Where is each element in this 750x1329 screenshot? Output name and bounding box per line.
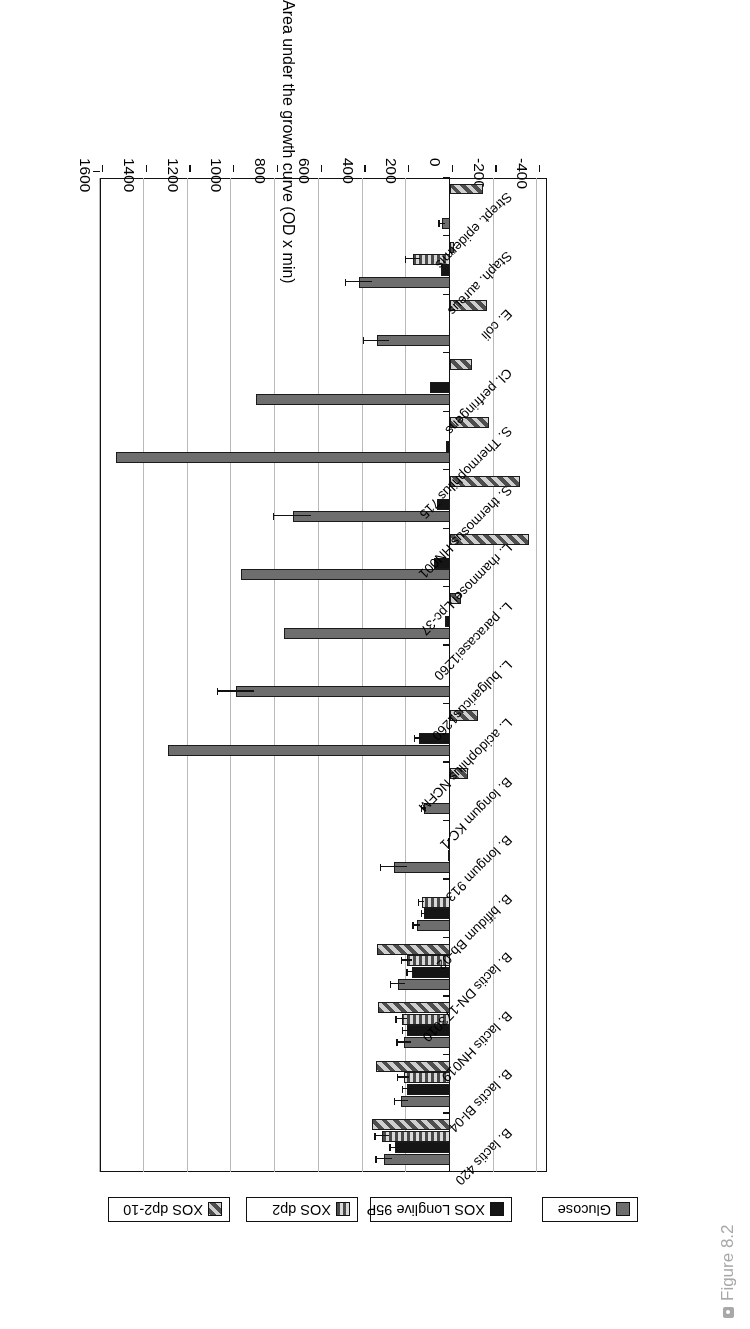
error-bar-cap: [389, 1144, 390, 1151]
legend-label: XOS dp2-10: [123, 1202, 203, 1217]
axis-tick-label: 1400: [120, 158, 138, 192]
axis-tick: [495, 165, 496, 172]
error-bar: [395, 1100, 408, 1101]
bullet-square-icon: [723, 1307, 734, 1318]
error-bar: [440, 223, 445, 224]
error-bar-cap: [394, 1098, 395, 1105]
category-tick: [443, 528, 450, 529]
legend-label: XOS dp2: [272, 1202, 331, 1217]
category-tick: [443, 586, 450, 587]
bar-1: [446, 441, 450, 452]
axis-tick-label: 200: [382, 158, 400, 184]
error-bar-cap: [390, 981, 391, 988]
axis-tick: [539, 165, 540, 172]
legend-item-3[interactable]: XOS dp2-10: [108, 1197, 230, 1222]
axis-tick: [233, 165, 234, 172]
bar-2: [382, 1131, 450, 1142]
axis-tick-label: 800: [251, 158, 269, 184]
axis-baseline: [93, 171, 100, 172]
axis-tick: [364, 165, 365, 172]
gridline: [143, 178, 144, 1172]
category-tick: [443, 820, 450, 821]
error-bar: [391, 1147, 401, 1148]
bar-1: [407, 1084, 450, 1095]
category-tick: [443, 235, 450, 236]
bar-0: [359, 277, 450, 288]
legend-label: XOS Longlive 95P: [367, 1202, 486, 1217]
bar-0: [116, 452, 450, 463]
category-tick: [443, 1054, 450, 1055]
category-tick: [443, 352, 450, 353]
error-bar: [274, 515, 312, 516]
axis-tick: [189, 165, 190, 172]
axis-title: Area under the growth curve (OD x min): [279, 0, 297, 284]
category-tick: [443, 937, 450, 938]
axis-tick-label: 400: [339, 158, 357, 184]
error-bar: [218, 690, 254, 691]
axis-tick-label: 1200: [164, 158, 182, 192]
gridline: [362, 178, 363, 1172]
error-bar-cap: [273, 513, 274, 520]
error-bar-cap: [397, 1074, 398, 1081]
bar-0: [402, 1096, 451, 1107]
axis-tick-label: 0: [426, 158, 444, 167]
error-bar-cap: [406, 969, 407, 976]
error-bar: [406, 258, 420, 259]
category-tick: [443, 995, 450, 996]
legend-item-2[interactable]: XOS dp2: [246, 1197, 358, 1222]
legend-swatch-icon: [336, 1203, 350, 1217]
figure-caption: Figure 8.2: [718, 1224, 738, 1318]
category-tick: [443, 644, 450, 645]
error-bar: [377, 1158, 393, 1159]
bar-1: [395, 1142, 450, 1153]
error-bar-cap: [395, 1016, 396, 1023]
error-bar-cap: [402, 1086, 403, 1093]
error-bar: [398, 1076, 409, 1077]
bar-0: [384, 1154, 450, 1165]
gridline: [99, 178, 100, 1172]
bar-3: [376, 1061, 450, 1072]
bar-1: [424, 908, 450, 919]
bar-3: [450, 359, 472, 370]
error-bar-cap: [380, 864, 381, 871]
category-tick: [443, 469, 450, 470]
error-bar: [419, 901, 424, 902]
axis-tick: [452, 165, 453, 172]
error-bar: [397, 1018, 407, 1019]
figure-rotator: 16001400120010008006004002000-200-400Are…: [0, 0, 750, 1240]
bar-0: [256, 394, 450, 405]
error-bar: [422, 913, 426, 914]
gridline: [274, 178, 275, 1172]
axis-tick-label: 600: [295, 158, 313, 184]
axis-tick: [102, 165, 103, 172]
category-tick: [443, 703, 450, 704]
legend-item-0[interactable]: Glucose: [542, 1197, 638, 1222]
axis-tick: [321, 165, 322, 172]
error-bar: [414, 924, 420, 925]
bar-chart: 16001400120010008006004002000-200-400Are…: [0, 0, 750, 1240]
error-bar-cap: [402, 1027, 403, 1034]
error-bar-cap: [363, 337, 364, 344]
axis-tick-label: -400: [513, 158, 531, 189]
gridline: [187, 178, 188, 1172]
error-bar-cap: [438, 220, 439, 227]
error-bar: [391, 983, 404, 984]
error-bar: [403, 1030, 411, 1031]
bar-3: [378, 1002, 450, 1013]
plot-area: [100, 178, 547, 1172]
legend-item-1[interactable]: XOS Longlive 95P: [370, 1197, 512, 1222]
error-bar-cap: [401, 957, 402, 964]
bar-1: [430, 382, 450, 393]
error-bar: [403, 1088, 412, 1089]
legend-label: Glucose: [558, 1202, 611, 1217]
axis-tick-label: 1600: [76, 158, 94, 192]
bar-3: [372, 1119, 450, 1130]
gridline: [318, 178, 319, 1172]
error-bar-cap: [412, 922, 413, 929]
bar-2: [422, 897, 450, 908]
axis-tick-label: 1000: [208, 158, 226, 192]
error-bar-cap: [418, 899, 419, 906]
axis-tick: [146, 165, 147, 172]
category-tick: [443, 177, 450, 178]
error-bar-cap: [421, 910, 422, 917]
